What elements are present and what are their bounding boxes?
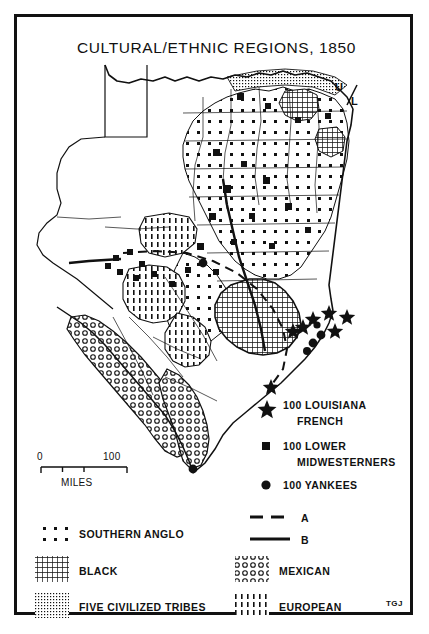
line-legend: A B bbox=[250, 512, 309, 546]
legend-label-mexican: MEXICAN bbox=[279, 565, 330, 577]
legend-item-five-civilized-tribes: FIVE CIVILIZED TRIBES bbox=[35, 592, 206, 618]
legend-item-line-a: A bbox=[250, 512, 309, 524]
legend-label-black: BLACK bbox=[79, 565, 118, 577]
legend-item-line-b: B bbox=[250, 534, 309, 546]
square-symbol bbox=[262, 442, 270, 450]
cartographer-signature: TGJ bbox=[386, 599, 403, 608]
svg-text:L: L bbox=[351, 95, 358, 107]
pattern-legend: SOUTHERN ANGLO BLACK FIVE CIVILIZED TRIB… bbox=[35, 519, 342, 618]
legend-item-mexican: MEXICAN bbox=[235, 556, 330, 582]
legend-label-louisiana-french-1: 100 LOUISIANA bbox=[283, 399, 366, 411]
scale-units-label: MILES bbox=[61, 477, 93, 488]
legend-label-line-a: A bbox=[301, 512, 309, 524]
legend-label-five-civilized-tribes: FIVE CIVILIZED TRIBES bbox=[79, 601, 206, 613]
swatch-dense-crosshatch bbox=[35, 556, 69, 582]
legend-label-line-b: B bbox=[301, 534, 309, 546]
legend-label-lower-midwesterners-1: 100 LOWER bbox=[283, 440, 346, 452]
legend-item-southern-anglo: SOUTHERN ANGLO bbox=[35, 519, 184, 545]
legend-item-black: BLACK bbox=[35, 556, 118, 582]
legend-item-european: EUROPEAN bbox=[235, 592, 342, 618]
legend-item-lower-midwesterners: 100 LOWER MIDWESTERNERS bbox=[262, 440, 396, 468]
swatch-vertical-dashes bbox=[235, 592, 269, 618]
texas-west-border bbox=[37, 137, 113, 309]
legend-item-louisiana-french: 100 LOUISIANA FRENCH bbox=[258, 399, 367, 427]
region-european-upper bbox=[139, 213, 197, 257]
legend-label-southern-anglo: SOUTHERN ANGLO bbox=[79, 528, 184, 540]
legend-label-european: EUROPEAN bbox=[279, 601, 342, 613]
map-figure: CULTURAL/ETHNIC REGIONS, 1850 bbox=[0, 0, 429, 634]
scale-bar: 0 100 MILES bbox=[37, 451, 127, 488]
legend-label-louisiana-french-2: FRENCH bbox=[297, 415, 343, 427]
star-symbol bbox=[258, 400, 277, 418]
legend-item-yankees: 100 YANKEES bbox=[261, 479, 357, 491]
swatch-sparse-dots bbox=[35, 519, 69, 545]
swatch-open-circles bbox=[235, 556, 269, 582]
scale-max-label: 100 bbox=[103, 451, 121, 462]
map-regions: U L bbox=[37, 65, 358, 473]
legend-label-lower-midwesterners-2: MIDWESTERNERS bbox=[297, 456, 396, 468]
map-frame: CULTURAL/ETHNIC REGIONS, 1850 bbox=[14, 14, 413, 615]
circle-symbol bbox=[261, 480, 270, 489]
swatch-fine-dot-grid bbox=[35, 592, 69, 618]
legend-label-yankees: 100 YANKEES bbox=[283, 479, 357, 491]
svg-text:U: U bbox=[335, 81, 343, 93]
scale-min-label: 0 bbox=[37, 451, 43, 462]
map-canvas: U L bbox=[17, 17, 416, 618]
symbol-legend: 100 LOUISIANA FRENCH 100 LOWER MIDWESTER… bbox=[258, 399, 396, 491]
